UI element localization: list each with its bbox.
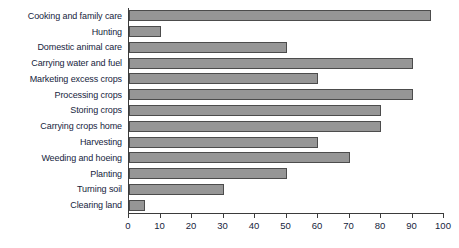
- x-tick-label: 0: [125, 220, 130, 232]
- category-label: Harvesting: [0, 134, 126, 150]
- x-tick-label: 90: [406, 220, 417, 232]
- category-label: Marketing excess crops: [0, 71, 126, 87]
- category-label: Processing crops: [0, 87, 126, 103]
- x-tick-label: 10: [154, 220, 165, 232]
- bar: [129, 200, 145, 211]
- bar-slot: [129, 103, 444, 119]
- x-tick: [380, 213, 381, 218]
- category-label: Planting: [0, 166, 126, 182]
- x-axis-tick-labels: 0102030405060708090100: [128, 220, 443, 234]
- bar-slot: [129, 150, 444, 166]
- category-label: Hunting: [0, 24, 126, 40]
- bar-slot: [129, 181, 444, 197]
- x-tick-label: 20: [186, 220, 197, 232]
- x-tick-label: 80: [375, 220, 386, 232]
- x-tick: [191, 213, 192, 218]
- bar-series: [129, 8, 444, 213]
- x-tick: [223, 213, 224, 218]
- category-label: Carrying water and fuel: [0, 55, 126, 71]
- x-tick: [254, 213, 255, 218]
- bar-slot: [129, 197, 444, 213]
- bar-slot: [129, 40, 444, 56]
- x-tick: [412, 213, 413, 218]
- bar: [129, 105, 381, 116]
- category-label: Clearing land: [0, 197, 126, 213]
- bar-slot: [129, 87, 444, 103]
- x-tick-label: 60: [312, 220, 323, 232]
- bar-chart: Cooking and family careHuntingDomestic a…: [0, 0, 459, 248]
- bar-slot: [129, 134, 444, 150]
- x-tick: [286, 213, 287, 218]
- bar: [129, 121, 381, 132]
- category-label: Carrying crops home: [0, 118, 126, 134]
- bar: [129, 10, 431, 21]
- bar: [129, 58, 413, 69]
- bar-slot: [129, 24, 444, 40]
- x-tick: [317, 213, 318, 218]
- x-tick-label: 50: [280, 220, 291, 232]
- bar-slot: [129, 8, 444, 24]
- category-label: Domestic animal care: [0, 40, 126, 56]
- x-tick-label: 40: [249, 220, 260, 232]
- bar: [129, 89, 413, 100]
- bar: [129, 152, 350, 163]
- category-label: Storing crops: [0, 103, 126, 119]
- bar: [129, 184, 224, 195]
- plot-area: [128, 8, 444, 213]
- x-axis-ticks: [128, 213, 443, 219]
- bar: [129, 73, 318, 84]
- bar-slot: [129, 55, 444, 71]
- x-tick: [349, 213, 350, 218]
- x-tick-label: 100: [435, 220, 451, 232]
- bar: [129, 168, 287, 179]
- bar: [129, 26, 161, 37]
- x-tick-label: 70: [343, 220, 354, 232]
- bar-slot: [129, 71, 444, 87]
- category-label: Turning soil: [0, 181, 126, 197]
- category-axis-labels: Cooking and family careHuntingDomestic a…: [0, 8, 126, 213]
- x-tick: [443, 213, 444, 218]
- bar: [129, 137, 318, 148]
- category-label: Cooking and family care: [0, 8, 126, 24]
- x-tick-label: 30: [217, 220, 228, 232]
- bar: [129, 42, 287, 53]
- category-label: Weeding and hoeing: [0, 150, 126, 166]
- bar-slot: [129, 118, 444, 134]
- x-tick: [160, 213, 161, 218]
- x-tick: [128, 213, 129, 218]
- bar-slot: [129, 166, 444, 182]
